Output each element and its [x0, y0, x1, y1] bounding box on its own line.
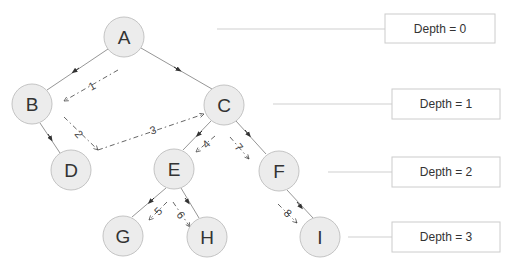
depth-2-label: Depth = 2 — [420, 165, 473, 179]
edge-C-F-arrow-icon — [245, 130, 249, 135]
depth-indicator-2: Depth = 2 — [328, 157, 500, 187]
traversal-step-7-label: 7 — [232, 141, 245, 153]
traversal-step-4-label: 4 — [200, 138, 213, 151]
tree-diagram: Depth = 0 Depth = 1 Depth = 2 Depth = 3 — [0, 0, 513, 270]
node-H-label: H — [200, 227, 214, 248]
tree-nodes: A B C D E F G H — [12, 17, 340, 257]
depth-0-label: Depth = 0 — [414, 22, 467, 36]
node-F: F — [259, 151, 299, 191]
depth-3-label: Depth = 3 — [420, 230, 473, 244]
node-G: G — [103, 216, 143, 256]
node-C: C — [204, 85, 244, 125]
node-A-label: A — [118, 27, 131, 48]
node-D-label: D — [64, 160, 78, 181]
node-D: D — [51, 150, 91, 190]
depth-indicators: Depth = 0 Depth = 1 Depth = 2 Depth = 3 — [217, 14, 500, 252]
edge-A-B-arrow-icon — [74, 68, 79, 72]
node-A: A — [104, 17, 144, 57]
node-I-label: I — [317, 227, 322, 248]
depth-indicator-0: Depth = 0 — [217, 14, 495, 43]
edge-A-C-arrow-icon — [174, 67, 179, 70]
depth-indicator-1: Depth = 1 — [273, 89, 500, 119]
depth-1-label: Depth = 1 — [420, 97, 473, 111]
node-I: I — [300, 217, 340, 257]
depth-indicator-3: Depth = 3 — [348, 222, 500, 252]
node-H: H — [187, 217, 227, 257]
edge-C-E-arrow-icon — [198, 131, 202, 135]
node-B: B — [12, 84, 52, 124]
traversal-step-1-label: 1 — [86, 79, 97, 92]
node-E-label: E — [168, 159, 181, 180]
traversal-step-3-label: 3 — [148, 123, 158, 136]
node-F-label: F — [273, 161, 285, 182]
traversal-step-8-label: 8 — [282, 207, 295, 220]
traversal-arrows: 1 2 3 4 7 5 6 8 — [64, 70, 297, 227]
edge-E-G-arrow-icon — [150, 198, 154, 202]
node-B-label: B — [26, 94, 39, 115]
traversal-step-6-label: 6 — [174, 209, 187, 221]
node-C-label: C — [217, 95, 231, 116]
traversal-step-5-label: 5 — [152, 205, 165, 218]
node-G-label: G — [116, 226, 131, 247]
traversal-step-2-label: 2 — [72, 128, 85, 140]
node-E: E — [154, 149, 194, 189]
edge-B-D-arrow-icon — [48, 134, 51, 139]
